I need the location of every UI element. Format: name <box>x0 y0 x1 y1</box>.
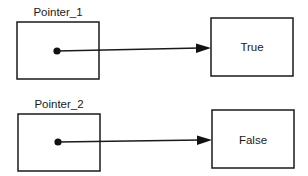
pointer-2-arrowhead <box>197 136 212 146</box>
pointer-2-label: Pointer_2 <box>34 98 83 110</box>
pointer-1-label: Pointer_1 <box>33 6 82 18</box>
false-value-label: False <box>239 134 267 146</box>
true-value-label: True <box>240 41 263 53</box>
pointer-1-group: Pointer_1 <box>17 6 211 79</box>
false-value-group: False <box>212 110 294 168</box>
pointer-2-group: Pointer_2 <box>18 98 212 171</box>
pointer-diagram: Pointer_1 True Pointer_2 False <box>0 0 308 176</box>
true-value-group: True <box>211 18 293 76</box>
pointer-1-arrowhead <box>196 44 211 54</box>
